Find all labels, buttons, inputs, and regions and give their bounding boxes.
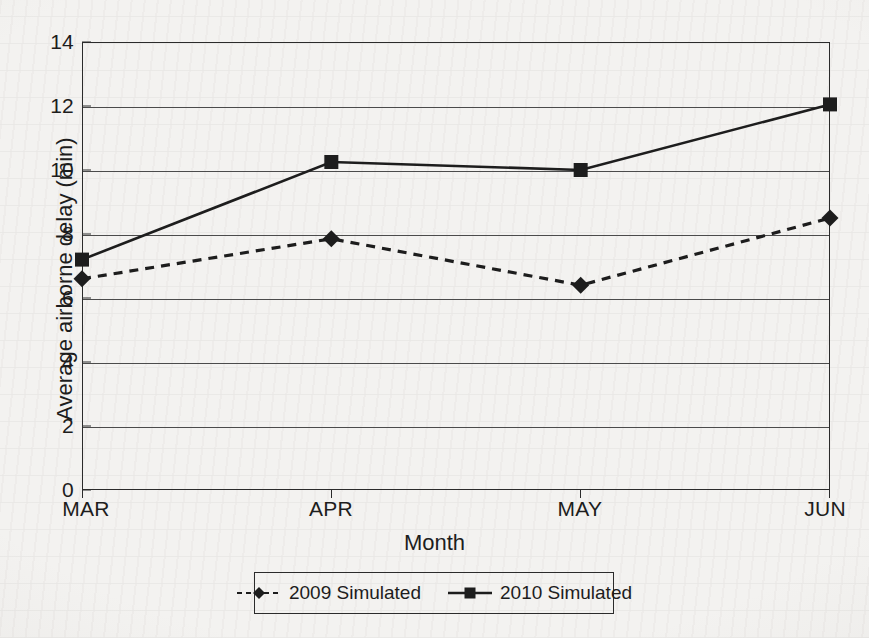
data-point-marker bbox=[572, 277, 589, 294]
data-point-marker bbox=[822, 210, 839, 227]
series-line bbox=[82, 218, 830, 285]
series-2009-simulated bbox=[74, 210, 839, 294]
series-2010-simulated bbox=[75, 97, 837, 266]
legend-marker-diamond-icon bbox=[236, 585, 282, 601]
legend-label-2010: 2010 Simulated bbox=[500, 582, 632, 604]
data-point-marker bbox=[323, 230, 340, 247]
data-point-marker bbox=[823, 97, 837, 111]
y-tick-label-14: 14 bbox=[50, 30, 74, 54]
legend-label-2009: 2009 Simulated bbox=[289, 582, 421, 604]
legend-entry-2009: 2009 Simulated bbox=[236, 582, 421, 604]
x-tick-label-mar: MAR bbox=[62, 497, 110, 521]
data-series-layer bbox=[82, 42, 830, 490]
x-tick-label-jun: JUN bbox=[804, 497, 846, 521]
x-axis-title: Month bbox=[0, 530, 869, 556]
x-tick-label-may: MAY bbox=[558, 497, 603, 521]
chart-figure: 14 12 10 8 6 4 2 0 MAR APR MAY JUN Avera… bbox=[0, 0, 869, 638]
x-tick-label-apr: APR bbox=[309, 497, 353, 521]
chart-legend: 2009 Simulated 2010 Simulated bbox=[254, 572, 614, 614]
data-point-marker bbox=[574, 163, 588, 177]
data-point-marker bbox=[324, 155, 338, 169]
legend-entry-2010: 2010 Simulated bbox=[447, 582, 632, 604]
legend-marker-square-icon bbox=[447, 585, 493, 601]
series-line bbox=[82, 104, 830, 259]
y-axis-title: Average airborne delay (min) bbox=[52, 114, 78, 444]
